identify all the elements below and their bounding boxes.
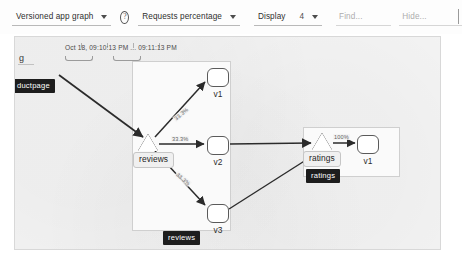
time-range-brace-start (65, 56, 93, 61)
graph-canvas[interactable]: Oct 18, 09:10:13 PM ... 09:11:13 PM g v1… (14, 36, 441, 250)
toolbar-edge-divider (458, 9, 459, 24)
clipped-node-underline (18, 64, 34, 65)
node-ratings-service-icon[interactable] (312, 133, 332, 150)
clipped-node-letter: g (19, 53, 24, 63)
display-group: Display 4 (254, 7, 322, 27)
node-reviews-v3-label: v3 (203, 225, 233, 235)
graph-type-select[interactable]: Versioned app graph (12, 9, 111, 26)
node-ratings-service-label: ratings (303, 151, 341, 167)
edge-labels-group: Requests percentage (138, 7, 240, 27)
node-ratings-v1-label: v1 (353, 156, 383, 166)
edge-label-reviews-v2: 33.3% (171, 136, 189, 142)
display-select[interactable]: Display 4 (254, 9, 322, 26)
badge-productpage: ductpage (14, 79, 55, 93)
edge-label-ratings-v1: 100% (333, 134, 350, 140)
help-circle-icon[interactable]: ? (120, 11, 129, 24)
node-reviews-v1[interactable] (207, 68, 229, 87)
node-reviews-service-icon[interactable] (138, 134, 158, 151)
find-input[interactable]: Find... (336, 9, 391, 26)
node-reviews-v2-label: v2 (203, 157, 233, 167)
node-reviews-service-label: reviews (133, 152, 174, 168)
find-placeholder: Find... (339, 12, 362, 21)
node-reviews-v2[interactable] (207, 136, 229, 155)
node-reviews-v1-label: v1 (203, 89, 233, 99)
hide-input[interactable]: Hide... (399, 9, 462, 26)
chevron-down-icon[interactable] (230, 15, 236, 19)
graph-toolbar: Versioned app graph ? Requests percentag… (0, 0, 462, 34)
node-ratings-v1[interactable] (357, 135, 379, 154)
display-count-badge: 4 (300, 12, 305, 21)
hide-placeholder: Hide... (402, 12, 426, 21)
chevron-down-icon[interactable] (312, 15, 318, 19)
display-label: Display (258, 12, 286, 21)
badge-reviews: reviews (163, 231, 200, 245)
graph-type-group: Versioned app graph (12, 7, 111, 27)
edge-labels-label: Requests percentage (142, 12, 222, 21)
chevron-down-icon[interactable] (101, 15, 107, 19)
edge-labels-select[interactable]: Requests percentage (138, 9, 240, 26)
node-reviews-v3[interactable] (207, 204, 229, 223)
badge-ratings: ratings (306, 169, 340, 183)
graph-type-label: Versioned app graph (16, 12, 93, 21)
time-range-label: Oct 18, 09:10:13 PM ... 09:11:13 PM (65, 44, 177, 51)
